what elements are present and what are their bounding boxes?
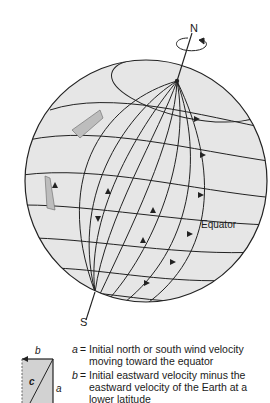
legend-key-b: b= <box>72 369 86 381</box>
rotation-axis-south <box>86 292 95 320</box>
legend-key-a: a= <box>72 343 86 355</box>
legend-text-a: Initial north or south wind velocity mov… <box>72 343 268 367</box>
north-label: N <box>190 22 198 34</box>
legend-text-b: Initial eastward velocity minus the east… <box>72 369 268 403</box>
earth-sphere <box>25 60 267 302</box>
south-label: S <box>80 316 87 328</box>
legend-item-a: a= Initial north or south wind velocity … <box>72 343 268 367</box>
north-pole-dot <box>175 79 179 83</box>
legend-item-b: b= Initial eastward velocity minus the e… <box>72 369 268 403</box>
vector-label-b: b <box>35 345 41 356</box>
vector-label-a: a <box>56 383 62 394</box>
rotation-arrow-icon <box>176 38 206 51</box>
equator-label: Equator <box>201 219 236 230</box>
vector-triangle-diagram <box>22 356 53 403</box>
vector-label-c: c <box>29 376 35 387</box>
